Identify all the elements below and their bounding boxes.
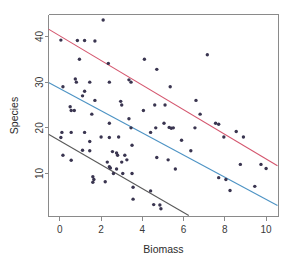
x-tick-label: 8	[222, 224, 228, 235]
data-point	[166, 158, 169, 161]
data-point	[88, 140, 91, 143]
data-point	[189, 149, 192, 152]
data-point	[81, 94, 84, 97]
data-point	[155, 156, 158, 159]
data-point	[253, 185, 256, 188]
data-point	[120, 160, 123, 163]
data-point	[142, 109, 145, 112]
data-point	[264, 167, 267, 170]
data-point	[104, 180, 107, 183]
data-point	[130, 172, 133, 175]
data-point	[69, 131, 72, 134]
data-point	[129, 80, 132, 83]
data-point	[242, 135, 245, 138]
plot-svg: 024681010203040BiomassSpecies	[0, 0, 295, 266]
data-point	[109, 166, 112, 169]
y-tick-label: 20	[34, 122, 45, 134]
data-point	[155, 68, 158, 71]
data-point	[93, 39, 96, 42]
data-point	[217, 122, 220, 125]
data-point	[112, 172, 115, 175]
data-point	[119, 100, 122, 103]
data-point	[143, 58, 146, 61]
data-point	[107, 62, 110, 65]
data-point	[88, 149, 91, 152]
data-point	[198, 112, 201, 115]
data-point	[90, 112, 93, 115]
data-point	[206, 53, 209, 56]
plot-frame	[49, 15, 279, 217]
data-point	[59, 38, 62, 41]
data-point	[131, 186, 134, 189]
data-point	[152, 203, 155, 206]
data-point	[194, 99, 197, 102]
data-point	[162, 122, 165, 125]
data-point	[101, 18, 104, 21]
data-point	[108, 80, 111, 83]
data-point	[121, 172, 124, 175]
scatter-plot-figure: 024681010203040BiomassSpecies	[0, 0, 295, 266]
y-tick-label: 30	[34, 76, 45, 88]
regression-line-mid	[49, 83, 278, 206]
data-point	[123, 154, 126, 157]
data-point	[129, 126, 132, 129]
data-point	[154, 126, 157, 129]
data-point	[69, 109, 72, 112]
data-point	[108, 122, 111, 125]
data-point	[83, 39, 86, 42]
data-point	[153, 103, 156, 106]
data-point	[180, 138, 183, 141]
data-point	[170, 127, 173, 130]
data-point	[93, 99, 96, 102]
data-point	[228, 189, 231, 192]
data-point	[88, 80, 91, 83]
data-point	[239, 163, 242, 166]
data-point	[117, 135, 120, 138]
data-point	[217, 176, 220, 179]
x-axis-title: Biomass	[143, 243, 183, 255]
data-point	[131, 197, 134, 200]
data-point	[235, 130, 238, 133]
x-tick-label: 4	[140, 224, 146, 235]
data-point	[125, 158, 128, 161]
data-point	[163, 103, 166, 106]
data-point	[76, 39, 79, 42]
data-point	[61, 85, 64, 88]
data-point	[130, 144, 133, 147]
data-point	[169, 85, 172, 88]
data-point	[75, 80, 78, 83]
data-point	[78, 58, 81, 61]
x-tick-label: 10	[261, 224, 273, 235]
data-point	[111, 150, 114, 153]
y-tick-label: 40	[34, 30, 45, 42]
data-point	[108, 136, 111, 139]
data-point	[120, 103, 123, 106]
data-point	[127, 117, 130, 120]
data-point	[222, 135, 225, 138]
data-point	[115, 167, 118, 170]
data-point	[60, 131, 63, 134]
series-layer	[49, 18, 278, 215]
data-point	[174, 167, 177, 170]
data-point	[74, 77, 77, 80]
data-point	[149, 131, 152, 134]
data-point	[159, 207, 162, 210]
data-point	[106, 160, 109, 163]
data-point	[61, 154, 64, 157]
data-point	[83, 90, 86, 93]
data-point	[91, 181, 94, 184]
data-point	[149, 189, 152, 192]
x-tick-label: 0	[57, 224, 63, 235]
data-point	[59, 136, 62, 139]
data-point	[68, 105, 71, 108]
x-tick-label: 6	[181, 224, 187, 235]
y-tick-label: 10	[34, 168, 45, 180]
data-point	[73, 109, 76, 112]
data-point	[99, 135, 102, 138]
x-tick-label: 2	[98, 224, 104, 235]
y-axis-title: Species	[8, 97, 20, 134]
data-point	[158, 203, 161, 206]
data-point	[259, 163, 262, 166]
data-point	[81, 149, 84, 152]
data-point	[193, 126, 196, 129]
